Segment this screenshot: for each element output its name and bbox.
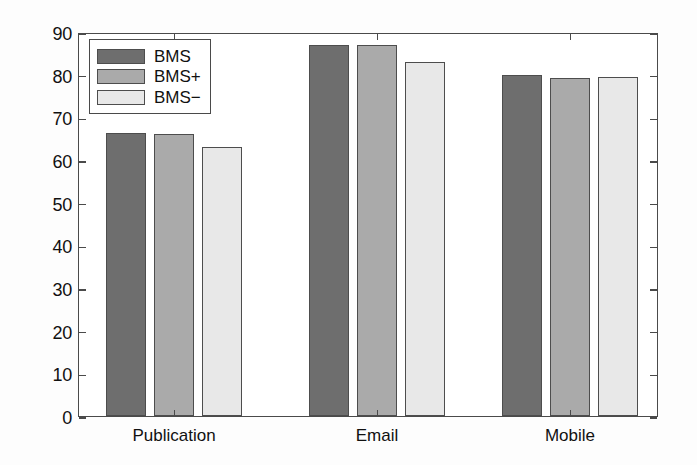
y-tick-label: 80: [53, 66, 72, 88]
bar-mobile-bms: [598, 77, 638, 416]
bar-mobile-bms: [502, 75, 542, 416]
legend-entry-bms: BMS−: [97, 88, 201, 107]
y-tick-label: 10: [53, 364, 72, 386]
y-tick-label: 90: [53, 23, 72, 45]
x-tick-mark-top-email: [377, 33, 378, 40]
legend-label: BMS−: [154, 88, 201, 107]
x-tick-label-mobile: Mobile: [545, 425, 595, 447]
y-tick-mark-right: [650, 247, 657, 248]
x-tick-mark-top-mobile: [570, 33, 571, 40]
legend-swatch: [97, 49, 145, 64]
y-tick-mark-right: [650, 375, 657, 376]
x-tick-mark-publication: [174, 410, 175, 417]
legend-label: BMS+: [154, 67, 201, 86]
y-tick-mark: [79, 375, 86, 376]
y-tick-label: 60: [53, 151, 72, 173]
bar-publication-bms: [106, 133, 146, 416]
y-tick-mark: [79, 33, 86, 34]
bar-email-bms: [309, 45, 349, 416]
legend-box: BMSBMS+BMS−: [89, 39, 211, 114]
y-tick-label: 40: [53, 236, 72, 258]
y-tick-mark-right: [650, 161, 657, 162]
y-tick-mark: [79, 76, 86, 77]
legend-label: BMS: [154, 47, 191, 66]
y-tick-label: 70: [53, 108, 72, 130]
y-tick-mark: [79, 417, 86, 418]
y-tick-label: 30: [53, 279, 72, 301]
y-tick-mark: [79, 332, 86, 333]
y-tick-mark-right: [650, 76, 657, 77]
x-tick-mark-mobile: [570, 410, 571, 417]
bar-mobile-bms: [550, 78, 590, 416]
y-tick-mark: [79, 289, 86, 290]
x-tick-mark-email: [377, 410, 378, 417]
bar-email-bms: [405, 62, 445, 416]
plot-frame: Average F1−score of learning curves 0102…: [78, 33, 658, 417]
y-tick-mark-right: [650, 33, 657, 34]
y-tick-mark: [79, 119, 86, 120]
y-tick-label: 20: [53, 322, 72, 344]
legend-entry-bms: BMS: [97, 47, 201, 66]
y-tick-mark-right: [650, 119, 657, 120]
legend-swatch: [97, 69, 145, 84]
x-tick-label-email: Email: [356, 425, 399, 447]
legend-swatch: [97, 90, 145, 105]
y-tick-mark-right: [650, 417, 657, 418]
y-tick-mark: [79, 161, 86, 162]
y-tick-mark-right: [650, 204, 657, 205]
y-tick-mark-right: [650, 332, 657, 333]
y-tick-label: 50: [53, 194, 72, 216]
bar-publication-bms: [202, 147, 242, 416]
y-tick-mark: [79, 247, 86, 248]
bar-email-bms: [357, 45, 397, 416]
bar-publication-bms: [154, 134, 194, 416]
figure-canvas: Average F1−score of learning curves 0102…: [0, 0, 697, 465]
x-tick-label-publication: Publication: [132, 425, 215, 447]
legend-entry-bms: BMS+: [97, 67, 201, 86]
y-tick-mark-right: [650, 289, 657, 290]
y-tick-label: 0: [62, 407, 72, 429]
y-tick-mark: [79, 204, 86, 205]
